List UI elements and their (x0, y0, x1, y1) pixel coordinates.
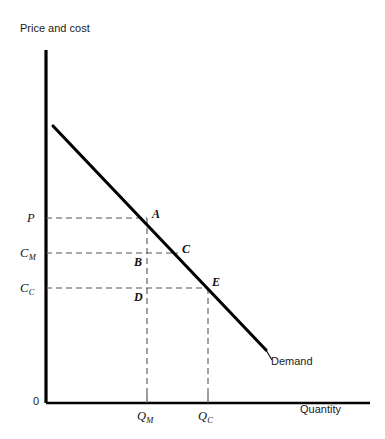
y-label-cost-competitive-sub: C (29, 287, 35, 297)
point-label-e: E (212, 276, 220, 288)
x-label-quantity-monopoly: QM (137, 410, 153, 423)
x-label-quantity-monopoly-base: Q (137, 409, 146, 423)
x-label-quantity-competitive-base: Q (198, 409, 207, 423)
y-label-cost-competitive-base: C (20, 281, 28, 295)
monopoly-demand-figure: Price and cost Quantity 0 P CM CC QM QC … (0, 0, 385, 439)
y-label-price: P (27, 212, 35, 225)
x-label-quantity-competitive: QC (198, 410, 213, 423)
point-label-a: A (152, 208, 160, 220)
y-label-cost-monopoly-sub: M (29, 252, 36, 262)
x-label-quantity-competitive-sub: C (207, 415, 213, 425)
point-label-d: D (134, 291, 143, 303)
diagram-canvas (0, 0, 385, 439)
y-label-price-text: P (27, 211, 35, 225)
point-label-b: B (134, 256, 142, 268)
y-label-cost-monopoly-base: C (20, 246, 28, 260)
point-label-c: C (182, 243, 190, 255)
x-label-quantity-monopoly-sub: M (146, 415, 153, 425)
x-axis-title: Quantity (300, 404, 341, 415)
y-label-cost-monopoly: CM (20, 247, 35, 260)
y-label-cost-competitive: CC (20, 282, 34, 295)
origin-label: 0 (33, 396, 39, 407)
y-axis-title: Price and cost (20, 22, 90, 36)
demand-curve (53, 126, 266, 350)
demand-curve-label: Demand (271, 356, 313, 367)
